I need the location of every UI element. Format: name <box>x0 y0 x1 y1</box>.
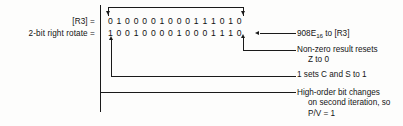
bit-before-9: 0 <box>183 16 192 26</box>
carry-sign-line1: 1 sets C and S to 1 <box>297 70 367 79</box>
hex-result-value: 908E <box>297 29 316 38</box>
bit-before-15: 0 <box>235 16 244 26</box>
zero-flag-line1: Non-zero result resets <box>297 45 378 54</box>
bit-after-4: 0 <box>140 28 149 38</box>
wraparound-left-arrow-icon <box>106 11 110 15</box>
bit-before-1: 1 <box>115 16 124 26</box>
bit-before-7: 0 <box>166 16 175 26</box>
bit-after-11: 0 <box>201 28 210 38</box>
bits-row-before: 0100001000111010 <box>106 16 244 26</box>
bit-after-8: 1 <box>175 28 184 38</box>
carry-sign-riser <box>111 40 112 76</box>
bit-before-12: 1 <box>209 16 218 26</box>
zero-flag-note: Non-zero result resets Z to 0 <box>297 45 378 66</box>
bit-before-8: 0 <box>175 16 184 26</box>
bit-before-2: 0 <box>123 16 132 26</box>
zero-flag-riser <box>243 37 244 50</box>
overflow-leader-line <box>100 92 296 93</box>
bit-before-5: 0 <box>149 16 158 26</box>
overflow-note: High-order bit changes on second iterati… <box>297 88 390 119</box>
hex-result-note: 908E16 to [R3] <box>297 29 349 39</box>
bit-before-0: 0 <box>106 16 115 26</box>
carry-sign-arrow-icon <box>109 36 113 40</box>
bit-after-12: 1 <box>209 28 218 38</box>
bit-before-14: 1 <box>226 16 235 26</box>
carry-sign-leader-line <box>111 76 296 77</box>
hex-leader-line <box>260 33 296 34</box>
bit-after-2: 0 <box>123 28 132 38</box>
wraparound-top-line <box>108 7 244 8</box>
zero-flag-leader-line <box>243 50 296 51</box>
bit-after-9: 0 <box>183 28 192 38</box>
bit-after-5: 0 <box>149 28 158 38</box>
bit-after-6: 0 <box>158 28 167 38</box>
overflow-line1: High-order bit changes <box>297 88 380 97</box>
bits-row-after: 1001000010001110 <box>106 28 244 38</box>
bit-after-3: 1 <box>132 28 141 38</box>
row-labels-group: [R3] = 2-bit right rotate = <box>0 0 95 126</box>
carry-sign-note: 1 sets C and S to 1 <box>297 70 367 80</box>
bit-after-10: 0 <box>192 28 201 38</box>
bit-rotate-diagram: [R3] = 2-bit right rotate = 010000100011… <box>0 0 403 126</box>
hex-leader-arrow-icon <box>255 31 259 35</box>
bit-after-7: 0 <box>166 28 175 38</box>
bit-after-1: 0 <box>115 28 124 38</box>
bit-after-14: 1 <box>226 28 235 38</box>
overflow-line3: P/V = 1 <box>297 109 390 119</box>
bit-after-13: 1 <box>218 28 227 38</box>
operation-label: 2-bit right rotate = <box>29 29 95 38</box>
bit-before-10: 1 <box>192 16 201 26</box>
register-label: [R3] = <box>72 17 95 26</box>
wraparound-right-arrow-icon <box>241 11 245 15</box>
bit-before-3: 0 <box>132 16 141 26</box>
zero-flag-line2: Z to 0 <box>297 55 378 65</box>
hex-result-subscript: 16 <box>316 32 323 39</box>
bit-before-11: 1 <box>201 16 210 26</box>
zero-flag-arrow-icon <box>241 34 245 38</box>
bit-before-13: 0 <box>218 16 227 26</box>
bit-before-6: 1 <box>158 16 167 26</box>
overflow-line2: on second iteration, so <box>297 98 390 108</box>
bit-before-4: 0 <box>140 16 149 26</box>
hex-result-destination: to [R3] <box>323 29 349 38</box>
overflow-riser <box>100 7 101 92</box>
